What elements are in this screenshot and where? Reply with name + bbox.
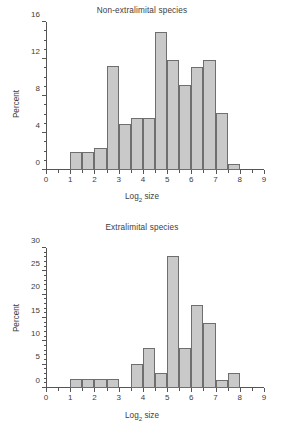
histogram-bar bbox=[203, 60, 215, 170]
x-tick-label: 5 bbox=[165, 175, 169, 184]
x-tick-major bbox=[70, 170, 71, 174]
y-tick-minor bbox=[44, 298, 47, 299]
histogram-bar bbox=[94, 148, 106, 170]
y-tick-minor bbox=[44, 114, 47, 115]
y-tick-minor bbox=[44, 336, 47, 337]
histogram-bar bbox=[94, 379, 106, 388]
y-tick-label: 10 bbox=[31, 328, 40, 337]
x-tick-major bbox=[46, 388, 47, 392]
x-tick-label: 9 bbox=[262, 175, 266, 184]
y-tick-minor bbox=[44, 373, 47, 374]
chart-title: Non-extralimital species bbox=[0, 6, 284, 15]
y-tick-label: 0 bbox=[36, 375, 40, 384]
x-tick-label: 6 bbox=[189, 175, 193, 184]
x-tick-label: 6 bbox=[189, 393, 193, 402]
x-tick-major bbox=[46, 170, 47, 174]
x-tick-minor bbox=[58, 170, 59, 173]
x-tick-major bbox=[216, 388, 217, 392]
histogram-bar bbox=[155, 32, 167, 170]
x-tick-major bbox=[119, 388, 120, 392]
y-tick-minor bbox=[44, 252, 47, 253]
x-tick-minor bbox=[228, 170, 229, 173]
histogram-bar bbox=[228, 373, 240, 388]
x-tick-minor bbox=[252, 170, 253, 173]
y-tick-minor bbox=[44, 378, 47, 379]
histogram-bar bbox=[167, 256, 179, 388]
histogram-bar bbox=[82, 379, 94, 388]
x-tick-minor bbox=[107, 170, 108, 173]
figure-root: Non-extralimital species Percent 0481216… bbox=[0, 0, 284, 437]
histogram-bar bbox=[143, 118, 155, 170]
y-tick-minor bbox=[44, 322, 47, 323]
y-tick-minor bbox=[44, 280, 47, 281]
y-tick-major bbox=[42, 270, 46, 271]
histogram-bar bbox=[191, 67, 203, 170]
histogram-bar bbox=[203, 323, 215, 388]
y-tick-minor bbox=[44, 359, 47, 360]
histogram-bar bbox=[179, 348, 191, 388]
x-tick-minor bbox=[203, 388, 204, 391]
y-tick-major bbox=[42, 317, 46, 318]
y-tick-major bbox=[42, 364, 46, 365]
x-tick-label: 7 bbox=[213, 393, 217, 402]
x-tick-major bbox=[240, 388, 241, 392]
x-axis-label: Log2 size bbox=[0, 411, 284, 422]
y-tick-label: 25 bbox=[31, 258, 40, 267]
y-tick-minor bbox=[44, 354, 47, 355]
x-tick-major bbox=[191, 388, 192, 392]
y-tick-label: 20 bbox=[31, 282, 40, 291]
x-tick-minor bbox=[82, 388, 83, 391]
chart-panel-non-extralimital: Non-extralimital species Percent 0481216… bbox=[0, 0, 284, 215]
histogram-bar bbox=[82, 152, 94, 170]
y-tick-minor bbox=[44, 345, 47, 346]
y-axis-line bbox=[46, 22, 47, 170]
y-tick-minor bbox=[44, 141, 47, 142]
y-tick-minor bbox=[44, 30, 47, 31]
x-tick-minor bbox=[82, 170, 83, 173]
x-tick-label: 9 bbox=[262, 393, 266, 402]
x-tick-label: 3 bbox=[116, 393, 120, 402]
x-tick-label: 4 bbox=[141, 393, 145, 402]
y-tick-label: 12 bbox=[31, 46, 40, 55]
y-axis-line bbox=[46, 248, 47, 388]
y-tick-minor bbox=[44, 266, 47, 267]
x-tick-major bbox=[143, 170, 144, 174]
y-tick-label: 15 bbox=[31, 305, 40, 314]
y-tick-major bbox=[42, 340, 46, 341]
y-tick-minor bbox=[44, 331, 47, 332]
x-axis-label-base: Log bbox=[125, 192, 139, 201]
y-tick-minor bbox=[44, 289, 47, 290]
histogram-bar bbox=[107, 66, 119, 170]
x-tick-minor bbox=[179, 170, 180, 173]
x-tick-minor bbox=[131, 170, 132, 173]
y-tick-minor bbox=[44, 123, 47, 124]
y-tick-minor bbox=[44, 40, 47, 41]
y-tick-minor bbox=[44, 382, 47, 383]
y-tick-label: 8 bbox=[36, 83, 40, 92]
histogram-bar bbox=[155, 373, 167, 388]
x-axis-label-rest: size bbox=[142, 411, 159, 420]
histogram-bar bbox=[216, 380, 228, 388]
x-tick-label: 5 bbox=[165, 393, 169, 402]
y-tick-label: 0 bbox=[36, 157, 40, 166]
x-tick-major bbox=[94, 170, 95, 174]
x-axis-label-rest: size bbox=[142, 192, 159, 201]
y-tick-minor bbox=[44, 104, 47, 105]
x-tick-minor bbox=[228, 388, 229, 391]
x-tick-label: 8 bbox=[238, 175, 242, 184]
x-tick-major bbox=[264, 388, 265, 392]
x-tick-major bbox=[119, 170, 120, 174]
x-tick-major bbox=[167, 170, 168, 174]
y-tick-minor bbox=[44, 326, 47, 327]
y-tick-label: 30 bbox=[31, 235, 40, 244]
x-tick-minor bbox=[179, 388, 180, 391]
x-tick-major bbox=[167, 388, 168, 392]
y-tick-minor bbox=[44, 77, 47, 78]
plot-area: 0510152025300123456789 bbox=[46, 248, 264, 388]
histogram-bar bbox=[107, 379, 119, 388]
x-tick-label: 4 bbox=[141, 175, 145, 184]
x-tick-label: 2 bbox=[92, 175, 96, 184]
x-tick-label: 0 bbox=[44, 175, 48, 184]
y-tick-major bbox=[42, 21, 46, 22]
histogram-bar bbox=[216, 113, 228, 170]
